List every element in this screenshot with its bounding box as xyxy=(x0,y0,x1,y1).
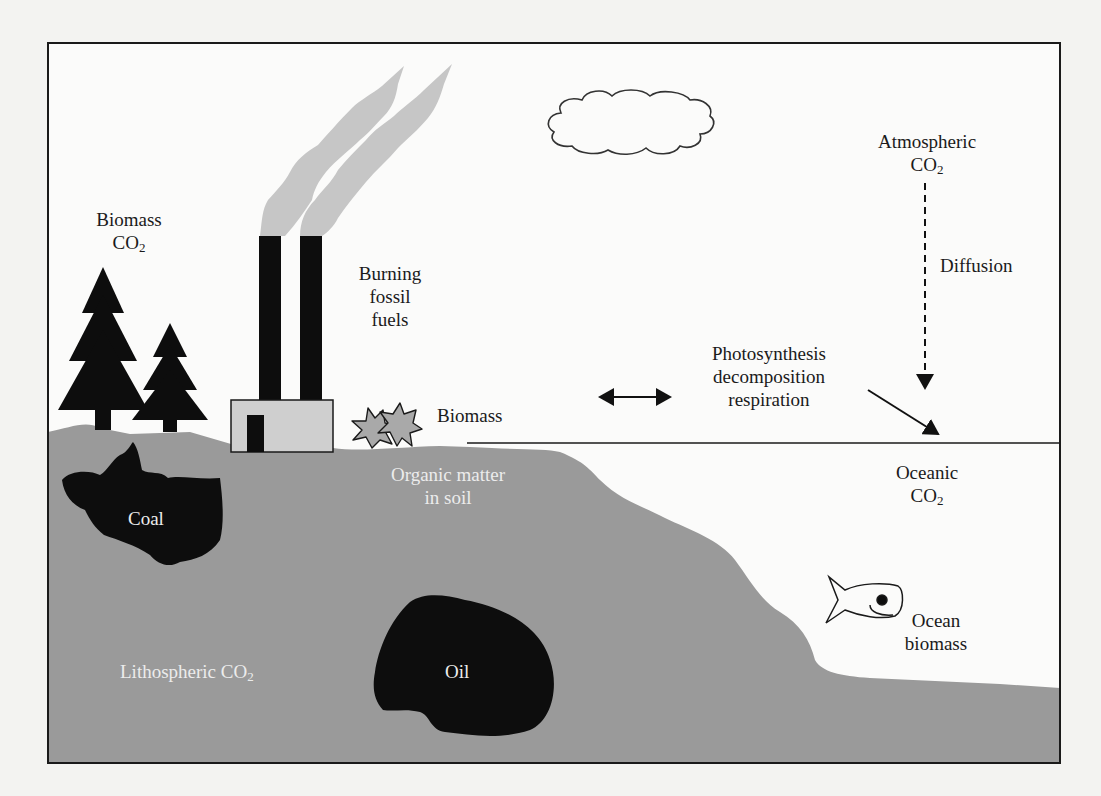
subscript-2: 2 xyxy=(247,669,254,684)
label-text: Lithospheric CO xyxy=(120,661,247,682)
co-text: CO xyxy=(911,154,937,175)
label-biomass-co2-line1: Biomass xyxy=(84,208,174,231)
label-oceanic-co2: Oceanic CO2 xyxy=(882,461,972,507)
label-coal: Coal xyxy=(128,507,164,530)
subscript-2: 2 xyxy=(937,162,944,177)
label-atmospheric-co2: Atmospheric CO2 xyxy=(862,130,992,176)
label-line: Photosynthesis xyxy=(694,342,844,365)
label-line: decomposition xyxy=(694,365,844,388)
label-biomass-co2: Biomass CO2 xyxy=(84,208,174,254)
co-text: CO xyxy=(113,232,139,253)
label-burning-fossil-fuels: Burning fossil fuels xyxy=(350,262,430,331)
label-line: Organic matter xyxy=(378,463,518,486)
label-biomass: Biomass xyxy=(437,404,502,427)
label-line: CO2 xyxy=(882,484,972,507)
label-line: Ocean xyxy=(896,609,976,632)
label-line: fossil xyxy=(350,285,430,308)
label-oil: Oil xyxy=(445,660,469,683)
label-line: biomass xyxy=(896,632,976,655)
label-biomass-co2-line2: CO2 xyxy=(84,231,174,254)
co-text: CO xyxy=(911,485,937,506)
factory-chimney-right xyxy=(300,236,322,400)
factory-chimney-left xyxy=(259,236,281,400)
label-line: in soil xyxy=(378,486,518,509)
label-photosynthesis: Photosynthesis decomposition respiration xyxy=(694,342,844,411)
cloud-icon xyxy=(548,90,713,154)
label-line: Oceanic xyxy=(882,461,972,484)
label-line: Atmospheric xyxy=(862,130,992,153)
label-organic-matter-in-soil: Organic matter in soil xyxy=(378,463,518,509)
label-diffusion: Diffusion xyxy=(940,254,1012,277)
label-line: CO2 xyxy=(862,153,992,176)
subscript-2: 2 xyxy=(139,240,146,255)
label-lithospheric-co2: Lithospheric CO2 xyxy=(120,660,254,683)
factory-door xyxy=(247,415,264,452)
subscript-2: 2 xyxy=(937,493,944,508)
label-line: Burning xyxy=(350,262,430,285)
factory-building xyxy=(231,400,333,452)
label-line: respiration xyxy=(694,388,844,411)
label-line: fuels xyxy=(350,308,430,331)
label-ocean-biomass: Ocean biomass xyxy=(896,609,976,655)
